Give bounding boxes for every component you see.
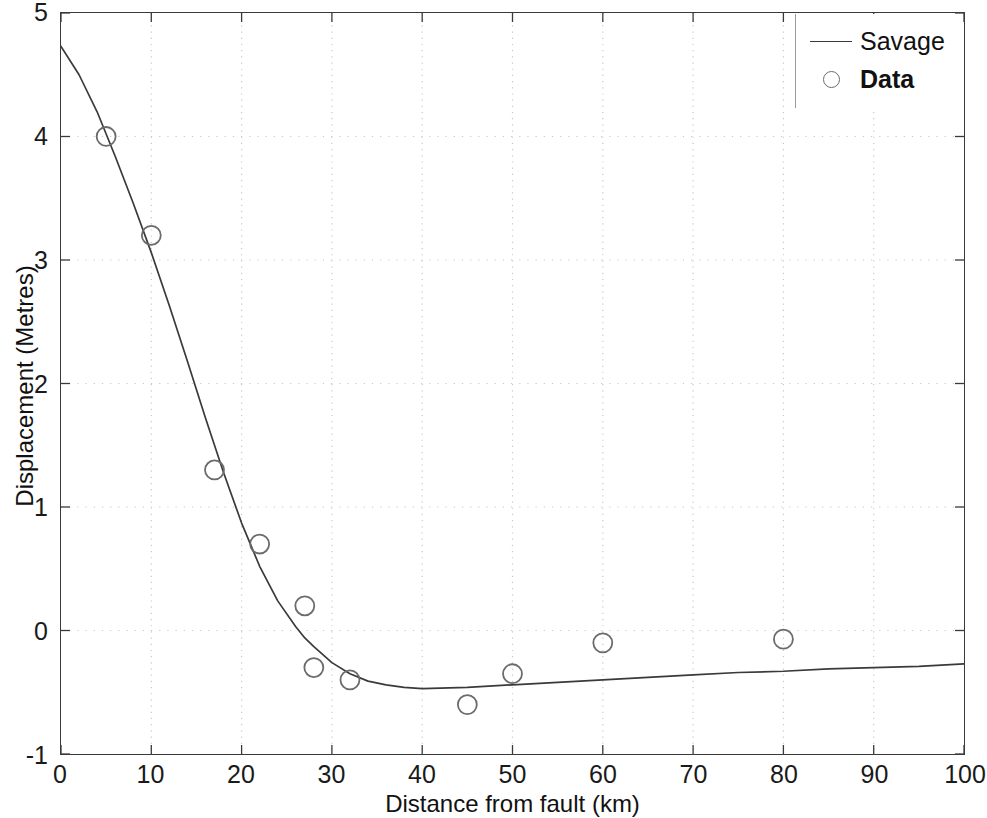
x-tick-label: 40 [408, 762, 436, 787]
x-tick-label: 80 [770, 762, 798, 787]
legend-entry-data: Data [796, 60, 963, 98]
legend-line-icon [802, 41, 860, 42]
y-gridlines [61, 137, 964, 631]
series-line-savage [61, 46, 964, 688]
chart-legend: Savage Data [795, 14, 963, 108]
x-tick-label: 50 [499, 762, 527, 787]
x-tick-label: 0 [53, 762, 67, 787]
legend-label-data: Data [860, 65, 914, 94]
x-tick-label: 60 [589, 762, 617, 787]
x-tick-label: 90 [861, 762, 889, 787]
plot-area [60, 12, 965, 755]
x-tick-label: 70 [680, 762, 708, 787]
x-tick-marks [61, 13, 964, 754]
legend-circle-marker-icon [802, 71, 860, 88]
x-axis-title: Distance from fault (km) [60, 790, 965, 818]
x-tick-label: 10 [137, 762, 165, 787]
y-axis-title: Displacement (Metres) [11, 15, 39, 758]
x-tick-label: 20 [227, 762, 255, 787]
series-points-data [97, 127, 793, 714]
y-tick-marks [61, 13, 964, 754]
legend-label-savage: Savage [860, 27, 945, 56]
legend-entry-savage: Savage [796, 22, 963, 60]
x-tick-label: 100 [944, 762, 986, 787]
chart-plot-svg [61, 13, 964, 754]
x-tick-label: 30 [318, 762, 346, 787]
